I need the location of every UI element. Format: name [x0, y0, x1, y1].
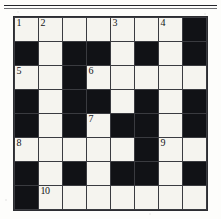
- crossword-cell-open[interactable]: [87, 138, 110, 161]
- crossword-cell-blocked: [63, 42, 86, 65]
- crossword-cell-blocked: [63, 114, 86, 137]
- header-rule-thin: [4, 8, 217, 9]
- crossword-cell-blocked: [135, 162, 158, 185]
- header-rule-thick: [4, 5, 217, 6]
- crossword-cell-open[interactable]: 5: [15, 66, 38, 89]
- crossword-cell-open[interactable]: [183, 66, 206, 89]
- crossword-cell-open[interactable]: [111, 138, 134, 161]
- crossword-cell-blocked: [111, 162, 134, 185]
- crossword-cell-open[interactable]: [159, 66, 182, 89]
- crossword-cell-open[interactable]: [39, 138, 62, 161]
- crossword-cell-open[interactable]: [159, 90, 182, 113]
- crossword-cell-blocked: [135, 138, 158, 161]
- crossword-cell-blocked: [87, 42, 110, 65]
- crossword-cell-open[interactable]: 2: [39, 18, 62, 41]
- crossword-cell-blocked: [183, 90, 206, 113]
- crossword-cell-blocked: [87, 90, 110, 113]
- crossword-cell-open[interactable]: [39, 42, 62, 65]
- crossword-cell-open[interactable]: 4: [159, 18, 182, 41]
- crossword-cell-open[interactable]: [63, 18, 86, 41]
- crossword-cell-open[interactable]: 3: [111, 18, 134, 41]
- crossword-cell-open[interactable]: [39, 66, 62, 89]
- crossword-grid-container: 12345678910: [13, 16, 208, 211]
- crossword-cell-open[interactable]: [111, 90, 134, 113]
- crossword-cell-open[interactable]: [39, 90, 62, 113]
- crossword-cell-open[interactable]: [159, 42, 182, 65]
- crossword-cell-open[interactable]: 7: [87, 114, 110, 137]
- crossword-cell-open[interactable]: 1: [15, 18, 38, 41]
- crossword-grid[interactable]: 12345678910: [13, 16, 208, 211]
- crossword-cell-open[interactable]: [87, 18, 110, 41]
- cell-number-4: 4: [160, 18, 165, 29]
- crossword-cell-open[interactable]: 8: [15, 138, 38, 161]
- crossword-cell-blocked: [183, 114, 206, 137]
- crossword-cell-open[interactable]: [87, 162, 110, 185]
- crossword-cell-open[interactable]: 6: [87, 66, 110, 89]
- crossword-cell-blocked: [15, 90, 38, 113]
- cell-number-5: 5: [16, 66, 21, 77]
- crossword-cell-blocked: [135, 42, 158, 65]
- cell-number-2: 2: [40, 18, 45, 29]
- crossword-cell-open[interactable]: [63, 186, 86, 209]
- crossword-cell-open[interactable]: [39, 162, 62, 185]
- crossword-cell-open[interactable]: [111, 42, 134, 65]
- cell-number-6: 6: [88, 66, 93, 77]
- crossword-cell-open[interactable]: [135, 66, 158, 89]
- crossword-cell-blocked: [183, 18, 206, 41]
- crossword-cell-blocked: [15, 42, 38, 65]
- crossword-cell-open[interactable]: 10: [39, 186, 62, 209]
- crossword-cell-open[interactable]: [183, 186, 206, 209]
- crossword-cell-blocked: [63, 66, 86, 89]
- crossword-cell-open[interactable]: 9: [159, 138, 182, 161]
- cell-number-1: 1: [16, 18, 21, 29]
- cell-number-3: 3: [112, 18, 117, 29]
- crossword-cell-blocked: [63, 162, 86, 185]
- crossword-cell-blocked: [183, 162, 206, 185]
- crossword-cell-blocked: [135, 114, 158, 137]
- crossword-cell-open[interactable]: [63, 138, 86, 161]
- crossword-cell-open[interactable]: [39, 114, 62, 137]
- crossword-cell-blocked: [63, 90, 86, 113]
- crossword-cell-open[interactable]: [135, 18, 158, 41]
- cell-number-10: 10: [40, 186, 49, 197]
- crossword-cell-open[interactable]: [111, 66, 134, 89]
- crossword-cell-open[interactable]: [159, 186, 182, 209]
- crossword-cell-open[interactable]: [135, 186, 158, 209]
- crossword-cell-blocked: [15, 186, 38, 209]
- crossword-cell-open[interactable]: [159, 162, 182, 185]
- crossword-cell-blocked: [135, 90, 158, 113]
- crossword-cell-blocked: [183, 42, 206, 65]
- crossword-cell-open[interactable]: [111, 186, 134, 209]
- crossword-cell-blocked: [15, 114, 38, 137]
- crossword-cell-open[interactable]: [87, 186, 110, 209]
- cell-number-8: 8: [16, 138, 21, 149]
- crossword-cell-open[interactable]: [183, 138, 206, 161]
- crossword-page: 12345678910: [0, 0, 221, 219]
- crossword-cell-blocked: [111, 114, 134, 137]
- cell-number-7: 7: [88, 114, 93, 125]
- cell-number-9: 9: [160, 138, 165, 149]
- crossword-cell-blocked: [15, 162, 38, 185]
- crossword-cell-open[interactable]: [159, 114, 182, 137]
